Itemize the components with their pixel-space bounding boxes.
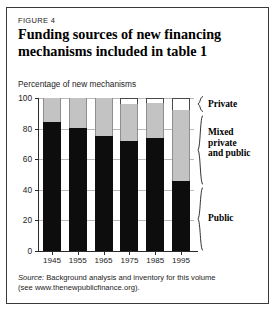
- bar-segment: [146, 138, 164, 251]
- x-axis-tick-label: 1955: [69, 256, 87, 265]
- y-axis-tick-label: 0: [27, 246, 32, 256]
- legend-brace-public: [197, 187, 204, 251]
- bar-segment: [95, 136, 113, 251]
- figure-title-line-1: Funding sources of new financing: [18, 26, 256, 43]
- x-axis-tick: [155, 251, 156, 255]
- x-axis-tick-label: 1985: [146, 256, 164, 265]
- x-axis-tick-label: 1965: [95, 256, 113, 265]
- bar-segment: [69, 98, 87, 128]
- y-axis-tick: [35, 98, 39, 99]
- legend-label-public: Public: [208, 213, 234, 224]
- bar-segment: [43, 122, 61, 251]
- figure-panel: FIGURE 4 Funding sources of new financin…: [6, 7, 269, 304]
- figure-source-note: Source: Background analysis and inventor…: [18, 273, 260, 293]
- x-axis-tick-label: 1945: [43, 256, 61, 265]
- bar-segment: [95, 98, 113, 136]
- y-axis-tick-label: 100: [18, 93, 32, 103]
- bar-1955: [69, 98, 87, 251]
- legend-brace-mixed: [197, 115, 204, 185]
- figure-number-label: FIGURE 4: [18, 16, 55, 25]
- figure-title-line-2: mechanisms included in table 1: [18, 43, 256, 60]
- bar-segment: [172, 181, 190, 251]
- bar-segment: [120, 98, 138, 104]
- y-axis-tick: [35, 129, 39, 130]
- bar-segment: [172, 110, 190, 180]
- gridline: [39, 220, 194, 221]
- bar-1995: [172, 98, 190, 251]
- y-axis-tick: [35, 220, 39, 221]
- gridline: [39, 159, 194, 160]
- x-axis-tick: [104, 251, 105, 255]
- chart-legend: Private Mixed private and public Public: [197, 96, 267, 253]
- y-axis-tick: [35, 251, 39, 252]
- y-axis-tick-label: 20: [23, 215, 32, 225]
- chart-plot-area: 020406080100 194519551965197519851995: [39, 98, 194, 251]
- source-text-1: Background analysis and inventory for th…: [46, 273, 215, 282]
- legend-label-mixed: Mixed private and public: [208, 127, 250, 159]
- y-axis-tick: [35, 159, 39, 160]
- y-axis-caption: Percentage of new mechanisms: [18, 79, 136, 89]
- y-axis-tick-label: 60: [23, 154, 32, 164]
- bar-segment: [43, 98, 61, 122]
- y-axis-tick-label: 80: [23, 124, 32, 134]
- gridline: [39, 98, 194, 99]
- legend-label-private: Private: [208, 99, 237, 110]
- bar-1975: [120, 98, 138, 251]
- bar-segment: [69, 128, 87, 251]
- plot-background: [39, 98, 194, 251]
- bar-1945: [43, 98, 61, 251]
- x-axis-tick: [52, 251, 53, 255]
- source-line-1: Source: Background analysis and inventor…: [18, 273, 260, 283]
- bar-segment: [146, 103, 164, 138]
- bar-1985: [146, 98, 164, 251]
- x-axis-tick: [78, 251, 79, 255]
- bar-1965: [95, 98, 113, 251]
- legend-brace-private: [197, 96, 204, 112]
- bar-segment: [120, 104, 138, 141]
- y-axis-tick: [35, 190, 39, 191]
- bar-segment: [146, 98, 164, 103]
- y-axis-tick-label: 40: [23, 185, 32, 195]
- bar-segment: [120, 141, 138, 251]
- x-axis-tick-label: 1995: [172, 256, 190, 265]
- gridline: [39, 129, 194, 130]
- x-axis-line: [35, 251, 198, 252]
- y-axis-line: [38, 98, 39, 251]
- bar-segment: [172, 98, 190, 110]
- figure-title: Funding sources of new financing mechani…: [18, 26, 256, 59]
- x-axis-tick: [181, 251, 182, 255]
- x-axis-tick: [129, 251, 130, 255]
- source-label: Source:: [18, 273, 44, 282]
- x-axis-tick-label: 1975: [120, 256, 138, 265]
- source-line-2: (see www.thenewpublicfinance.org).: [18, 283, 260, 293]
- gridline: [39, 190, 194, 191]
